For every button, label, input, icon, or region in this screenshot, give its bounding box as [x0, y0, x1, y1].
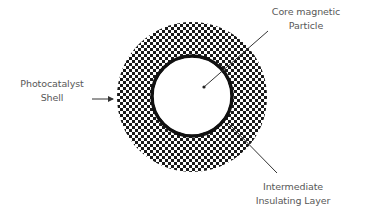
label-intermediate-insulating-layer: Intermediate Insulating Layer	[240, 180, 346, 208]
label-insulating-line1: Intermediate	[240, 180, 346, 194]
label-photocatalyst-shell: Photocatalyst Shell	[10, 77, 94, 105]
label-shell-line1: Photocatalyst	[10, 77, 94, 91]
label-core-magnetic-particle: Core magnetic Particle	[266, 5, 346, 33]
label-shell-line2: Shell	[10, 91, 94, 105]
label-core-line1: Core magnetic	[266, 5, 346, 19]
core-leader-dot	[202, 85, 205, 88]
label-core-line2: Particle	[266, 19, 346, 33]
label-insulating-line2: Insulating Layer	[240, 194, 346, 208]
core-particle	[154, 58, 230, 134]
